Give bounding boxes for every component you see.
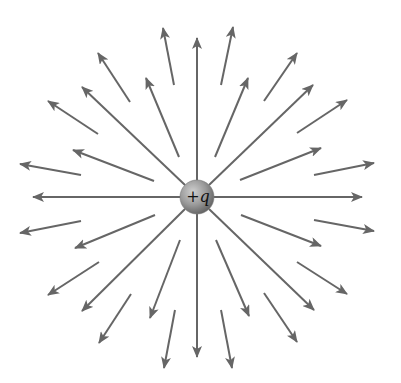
field-arrow	[48, 262, 99, 295]
field-arrow	[150, 240, 180, 318]
field-arrow	[99, 294, 131, 343]
charge-symbol: q	[200, 187, 210, 206]
field-arrow	[216, 240, 249, 316]
field-arrow	[297, 262, 347, 294]
field-arrow	[20, 164, 81, 175]
field-arrow	[164, 310, 175, 368]
charge-label: +q	[180, 186, 216, 208]
field-arrow	[20, 221, 81, 233]
field-arrow	[297, 100, 347, 133]
field-arrow	[264, 53, 297, 101]
charge-sign: +	[186, 187, 199, 206]
field-arrow	[264, 293, 297, 342]
field-arrow	[98, 53, 130, 102]
field-arrow	[73, 150, 154, 181]
field-arrow	[314, 220, 374, 231]
field-arrow	[215, 78, 248, 157]
field-arrow	[240, 148, 321, 180]
field-arrow	[241, 215, 321, 246]
field-arrow	[314, 163, 374, 175]
field-arrow	[221, 310, 232, 368]
field-arrow	[146, 78, 179, 157]
field-arrow	[75, 215, 155, 248]
field-arrow	[221, 27, 233, 85]
field-arrow	[48, 101, 98, 134]
field-arrow	[163, 28, 174, 85]
